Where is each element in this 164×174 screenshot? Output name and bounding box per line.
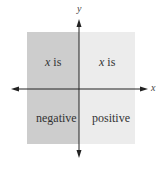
- label-is: is: [104, 55, 115, 69]
- y-axis-up-arrow-icon: [77, 19, 82, 27]
- x-axis-label: x: [151, 82, 155, 93]
- coordinate-axes: [0, 0, 164, 174]
- x-axis-right-arrow-icon: [140, 87, 148, 92]
- y-axis-label: y: [77, 3, 81, 14]
- right-region-label-top: x is: [99, 55, 115, 70]
- x-axis-left-arrow-icon: [11, 87, 19, 92]
- negative-label: negative: [36, 111, 77, 126]
- positive-label: positive: [92, 111, 130, 126]
- y-axis-down-arrow-icon: [77, 150, 82, 158]
- left-region-label-top: x is: [45, 55, 61, 70]
- label-is: is: [50, 55, 61, 69]
